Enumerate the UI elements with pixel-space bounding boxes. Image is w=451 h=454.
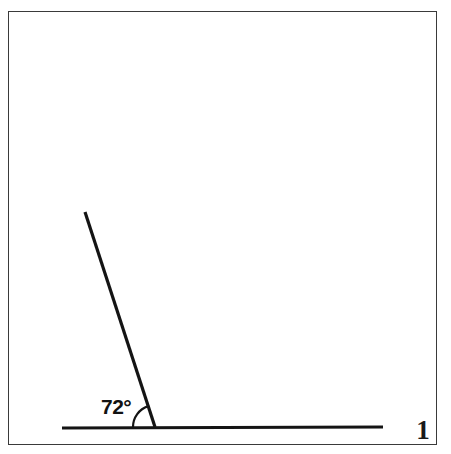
figure-page: 72° 1 <box>0 0 451 454</box>
figure-number-label: 1 <box>410 417 436 444</box>
horizontal-ray <box>62 427 383 428</box>
angle-arc <box>133 406 148 427</box>
angle-diagram <box>0 0 451 454</box>
angle-measure-label: 72° <box>101 396 131 417</box>
